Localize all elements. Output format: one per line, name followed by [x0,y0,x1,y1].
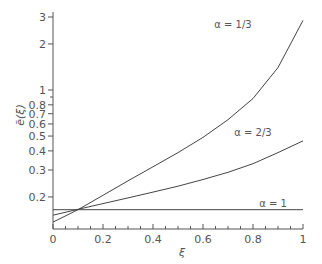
series-label-1: α = 1/3 [214,19,251,30]
series-label-3: α = 1 [259,198,287,209]
y-tick-label: 0.4 [29,145,47,158]
x-tick-label: 0.6 [194,233,212,246]
y-tick-label: 0.5 [29,130,47,143]
series-lines [53,20,303,222]
line-chart: 0.20.30.40.50.60.70.812300.20.40.60.81 α… [0,0,322,264]
x-axis-title: ξ [178,246,186,259]
series-label-2: α = 2/3 [234,127,271,138]
x-tick-label: 0.4 [144,233,162,246]
x-tick-label: 0 [50,233,57,246]
x-tick-label: 0.2 [94,233,112,246]
y-tick-label: 1 [39,84,46,97]
y-tick-label: 0.3 [29,164,47,177]
chart-container: 0.20.30.40.50.60.70.812300.20.40.60.81 α… [0,0,322,264]
series-labels: α = 1/3α = 2/3α = 1 [214,19,287,209]
y-tick-label: 0.2 [29,191,47,204]
y-tick-label: 3 [39,11,46,24]
x-tick-label: 0.8 [244,233,262,246]
y-axis-title: ẽ(ξ) [14,104,27,125]
y-tick-label: 2 [39,38,46,51]
y-tick-label: 0.8 [29,99,47,112]
x-tick-label: 1 [300,233,307,246]
series-line-1 [53,20,303,222]
